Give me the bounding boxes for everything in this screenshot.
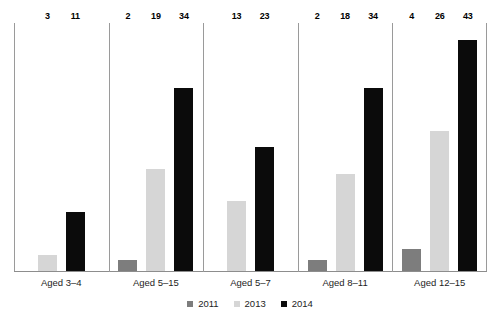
bar-2014[interactable]: 43	[458, 23, 477, 271]
bar-rect[interactable]: 2	[308, 260, 327, 271]
bar-2011[interactable]: 4	[402, 23, 421, 271]
bar-2013[interactable]: 18	[336, 23, 355, 271]
legend-label: 2011	[198, 298, 218, 309]
legend-item-2014[interactable]: 2014	[281, 298, 313, 309]
bar-value-label: 34	[368, 12, 378, 21]
bar-rect[interactable]: 43	[458, 40, 477, 271]
bar-value-label: 18	[340, 12, 350, 21]
bar-rect[interactable]: 23	[255, 147, 274, 271]
bar-value-label: 19	[151, 12, 161, 21]
category-label: Aged 8–11	[298, 277, 393, 289]
bar-group: 21834	[298, 23, 393, 271]
bar-value-label: 11	[71, 12, 80, 21]
bar-group: 311	[14, 23, 109, 271]
bar-group-bars: 311	[14, 23, 109, 271]
series-2013-swatch	[234, 301, 240, 307]
category-label: Aged 5–7	[203, 277, 298, 289]
series-2014-swatch	[281, 301, 287, 307]
bar-rect[interactable]: 2	[118, 260, 137, 271]
bar-rect[interactable]: 11	[66, 212, 85, 271]
bar-group: 21934	[109, 23, 204, 271]
x-axis-baseline	[14, 271, 487, 272]
bar-2011[interactable]: 2	[308, 23, 327, 271]
bar-rect[interactable]: 34	[364, 88, 383, 271]
bar-group-bars: 1323	[203, 23, 298, 271]
bar-rect[interactable]: 13	[227, 201, 246, 271]
bar-rect[interactable]: 19	[146, 169, 165, 271]
legend-item-2011[interactable]: 2011	[187, 298, 218, 309]
bar-value-label: 23	[260, 12, 270, 21]
chart-legend: 201120132014	[0, 298, 500, 309]
bar-2014[interactable]: 34	[364, 23, 383, 271]
bar-value-label: 2	[315, 12, 320, 21]
bar-value-label: 4	[409, 12, 414, 21]
bar-rect[interactable]: 18	[336, 174, 355, 271]
category-label: Aged 12–15	[392, 277, 487, 289]
bar-rect[interactable]: 3	[38, 255, 57, 271]
bar-rect[interactable]: 26	[430, 131, 449, 271]
legend-label: 2013	[245, 298, 266, 309]
category-axis-labels: Aged 3–4Aged 5–15Aged 5–7Aged 8–11Aged 1…	[14, 277, 487, 293]
bar-rect[interactable]: 34	[174, 88, 193, 271]
legend-item-2013[interactable]: 2013	[234, 298, 266, 309]
bar-2014[interactable]: 11	[66, 23, 85, 271]
plot-area: 3112193413232183442643	[14, 23, 487, 272]
bar-value-label: 2	[125, 12, 130, 21]
bar-group-bars: 42643	[392, 23, 487, 271]
bar-value-label: 3	[45, 12, 50, 21]
legend-label: 2014	[292, 298, 313, 309]
bar-2014[interactable]: 23	[255, 23, 274, 271]
bar-2013[interactable]: 19	[146, 23, 165, 271]
bar-2014[interactable]: 34	[174, 23, 193, 271]
bar-value-label: 43	[463, 12, 473, 21]
bar-rect[interactable]: 4	[402, 249, 421, 271]
series-2011-swatch	[187, 301, 193, 307]
bar-2011[interactable]: 2	[118, 23, 137, 271]
bar-group: 42643	[392, 23, 487, 271]
bar-value-label: 34	[179, 12, 189, 21]
bar-value-label: 26	[435, 12, 445, 21]
grouped-bar-chart: 3112193413232183442643 Aged 3–4Aged 5–15…	[0, 0, 500, 323]
bar-2013[interactable]: 3	[38, 23, 57, 271]
bar-group: 1323	[203, 23, 298, 271]
bar-group-bars: 21934	[109, 23, 204, 271]
bar-2013[interactable]: 26	[430, 23, 449, 271]
bar-value-label: 13	[232, 12, 242, 21]
category-label: Aged 5–15	[109, 277, 204, 289]
bar-group-bars: 21834	[298, 23, 393, 271]
bar-2013[interactable]: 13	[227, 23, 246, 271]
category-label: Aged 3–4	[14, 277, 109, 289]
